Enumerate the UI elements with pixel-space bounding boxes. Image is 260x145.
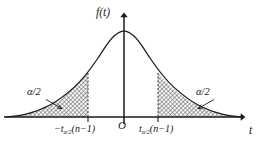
tick-right-argument: (n−1) [150,123,173,134]
x-axis-label: t [249,125,252,137]
right-alpha-leader-line [198,100,214,109]
tick-right-subscript: α/2 [142,128,150,135]
tick-left-sign: − [54,123,61,134]
right-tail-area-label: α/2 [196,87,210,98]
y-axis-label: f(t) [96,7,110,19]
tick-left-subscript: α/2 [64,128,72,135]
origin-label: O [118,120,126,131]
tick-label-left-critical-value: −tα/2(n−1) [54,124,95,135]
density-plot-svg [0,0,260,145]
tick-label-right-critical-value: tα/2(n−1) [139,124,173,135]
left-tail-area-label: α/2 [27,87,41,98]
left-tail-shaded-region [8,73,88,117]
figure-container: f(t) t O α/2 α/2 −tα/2(n−1) tα/2(n−1) [0,0,260,145]
tick-left-argument: (n−1) [72,123,95,134]
